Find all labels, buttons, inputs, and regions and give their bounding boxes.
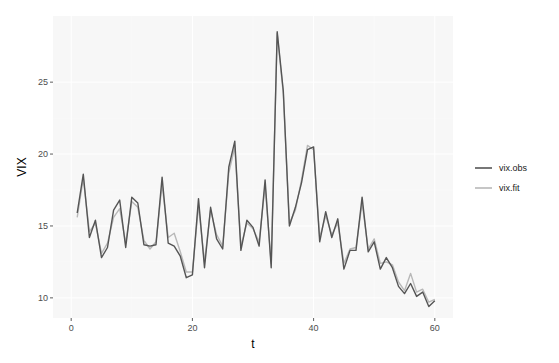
x-tick-label: 40 (309, 323, 319, 333)
legend-label-vix-obs: vix.obs (499, 163, 528, 173)
legend: vix.obs vix.fit (475, 163, 528, 193)
y-tick-label: 10 (38, 293, 48, 303)
x-axis: 0204060 t (69, 318, 440, 351)
x-tick-label: 0 (69, 323, 74, 333)
y-axis: 10152025 VIX (15, 77, 53, 303)
legend-item-vix-obs: vix.obs (475, 163, 528, 173)
chart: 10152025 VIX 0204060 t vix.obs vix.fit (0, 0, 559, 363)
x-tick-label: 60 (430, 323, 440, 333)
x-axis-title: t (251, 337, 255, 351)
x-tick-label: 20 (187, 323, 197, 333)
y-tick-label: 20 (38, 149, 48, 159)
y-tick-label: 15 (38, 221, 48, 231)
legend-label-vix-fit: vix.fit (499, 183, 520, 193)
y-axis-title: VIX (15, 157, 29, 176)
y-tick-label: 25 (38, 77, 48, 87)
legend-item-vix-fit: vix.fit (475, 183, 520, 193)
